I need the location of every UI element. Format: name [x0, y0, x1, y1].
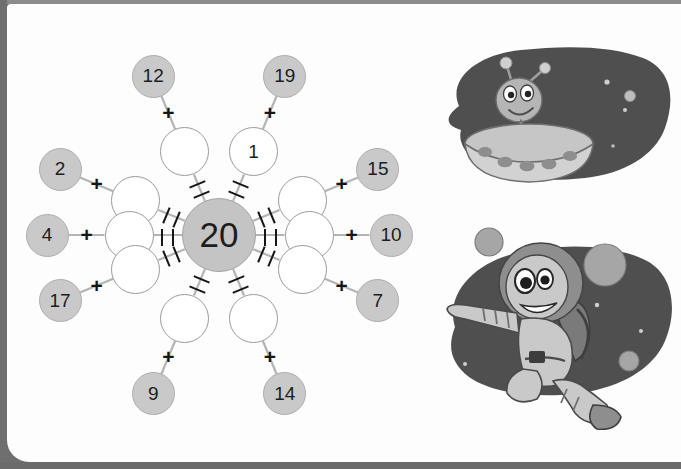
planet-small — [625, 91, 636, 102]
given-number-ne: 15 — [356, 148, 399, 191]
alien-saucer-illustration — [417, 34, 677, 209]
scan-edge-bottom — [0, 462, 681, 469]
answer-circle-ssw[interactable] — [160, 294, 209, 343]
scan-edge-left — [0, 0, 7, 469]
plus-sign: + — [81, 224, 93, 245]
number-wheel: +2+12+119+15+4+10+17+9+14+720 — [7, 4, 427, 462]
answer-circle-se[interactable] — [278, 245, 327, 294]
plus-sign: + — [264, 102, 276, 123]
saucer-light — [542, 159, 557, 169]
plus-sign: + — [335, 173, 347, 194]
plus-sign: + — [264, 346, 276, 367]
saucer-light — [478, 147, 492, 157]
equals-sign — [264, 229, 277, 246]
star-dot — [611, 144, 615, 148]
planet-top-right — [584, 244, 626, 286]
antenna-ball-left — [500, 57, 512, 69]
alien-pupil-right — [525, 91, 531, 97]
given-number-ssw: 9 — [132, 372, 175, 415]
star-dot — [639, 329, 643, 333]
given-number-nw: 2 — [39, 148, 82, 191]
star-dot — [463, 362, 467, 366]
answer-circle-sw[interactable] — [111, 245, 160, 294]
worksheet-screen: +2+12+119+15+4+10+17+9+14+720 — [0, 0, 681, 469]
astronaut-pupil-left — [520, 277, 532, 289]
astronaut-illustration — [425, 209, 681, 434]
given-number-e: 10 — [370, 214, 413, 257]
antenna-ball-right — [540, 63, 551, 74]
answer-circle-nne[interactable]: 1 — [229, 127, 278, 176]
saucer-light — [520, 161, 535, 171]
plus-sign: + — [346, 224, 358, 245]
saucer-light — [563, 151, 577, 161]
given-number-w: 4 — [26, 214, 69, 257]
equals-sign — [161, 229, 174, 246]
astronaut-boot — [590, 405, 621, 429]
answer-circle-sse[interactable] — [229, 294, 278, 343]
given-number-sw: 17 — [39, 279, 82, 322]
star-dot — [595, 303, 599, 307]
star-dot — [623, 108, 627, 112]
given-number-nnw: 12 — [132, 55, 175, 98]
plus-sign: + — [335, 275, 347, 296]
center-target-circle: 20 — [182, 198, 256, 272]
alien-pupil-left — [508, 92, 514, 98]
plus-sign: + — [91, 275, 103, 296]
worksheet-page: +2+12+119+15+4+10+17+9+14+720 — [7, 4, 681, 462]
astronaut-pupil-right — [540, 275, 549, 284]
plus-sign: + — [162, 102, 174, 123]
planet-bottom-right — [619, 351, 639, 371]
planet-top-left — [475, 228, 503, 256]
saucer-light — [498, 157, 513, 167]
chest-panel — [529, 351, 545, 363]
plus-sign: + — [162, 346, 174, 367]
given-number-nne: 19 — [263, 55, 306, 98]
star-dot — [604, 79, 609, 84]
plus-sign: + — [91, 173, 103, 194]
